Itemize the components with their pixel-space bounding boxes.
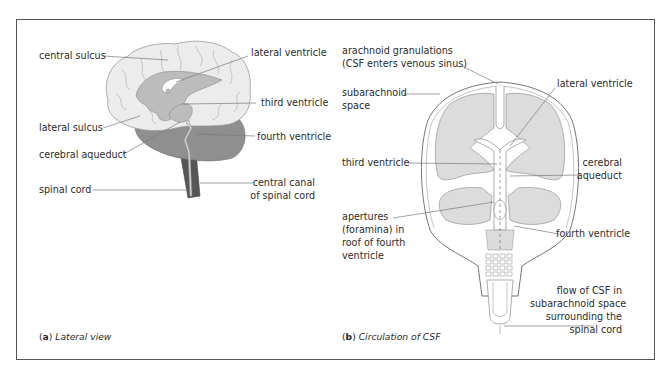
label-third-ventricle-a: third ventricle	[261, 97, 328, 110]
label-lateral-ventricle-a: lateral ventricle	[251, 47, 327, 60]
label-flow-line4: spinal cord	[530, 324, 622, 337]
left-lower-lobe	[439, 188, 492, 225]
label-lateral-ventricle-b: lateral ventricle	[557, 78, 633, 91]
label-fourth-ventricle-b: fourth ventricle	[556, 228, 630, 241]
caption-letter-b: b	[346, 331, 353, 342]
label-flow-line3: surrounding the	[530, 311, 622, 324]
label-arachnoid-line1: arachnoid granulations	[342, 45, 453, 58]
caption-text-a: Lateral view	[55, 331, 111, 342]
label-spinal-cord-a: spinal cord	[39, 184, 91, 197]
label-apertures-line1: apertures	[342, 211, 388, 224]
label-cerebral-aqueduct-a: cerebral aqueduct	[39, 149, 127, 162]
spinal-cord-b	[487, 280, 513, 324]
label-cerebral-line2: aqueduct	[570, 170, 622, 183]
label-central-canal-line2: of spinal cord	[250, 190, 315, 203]
label-central-sulcus: central sulcus	[39, 50, 106, 63]
caption-text-b: Circulation of CSF	[359, 331, 441, 342]
caption-letter-a: a	[43, 331, 49, 342]
caption-panel-a: (a) Lateral view	[39, 331, 111, 342]
right-lower-lobe	[508, 188, 561, 225]
label-fourth-ventricle-a: fourth ventricle	[257, 131, 331, 144]
label-flow-line1: flow of CSF in	[530, 285, 622, 298]
label-cerebral-line1: cerebral	[570, 157, 622, 170]
label-central-canal-line1: central canal	[250, 177, 315, 190]
label-subarachnoid-line2: space	[342, 100, 370, 113]
label-lateral-sulcus: lateral sulcus	[39, 122, 103, 135]
label-apertures-line2: (foramina) in	[342, 224, 404, 237]
label-apertures-line3: roof of fourth	[342, 237, 405, 250]
caption-panel-b: (b) Circulation of CSF	[342, 331, 441, 342]
label-flow-line2: subarachnoid space	[530, 298, 622, 311]
label-arachnoid-line2: (CSF enters venous sinus)	[342, 58, 467, 71]
label-apertures-line4: ventricle	[342, 250, 384, 263]
label-third-ventricle-b: third ventricle	[342, 157, 409, 170]
label-subarachnoid-line1: subarachnoid	[342, 87, 407, 100]
